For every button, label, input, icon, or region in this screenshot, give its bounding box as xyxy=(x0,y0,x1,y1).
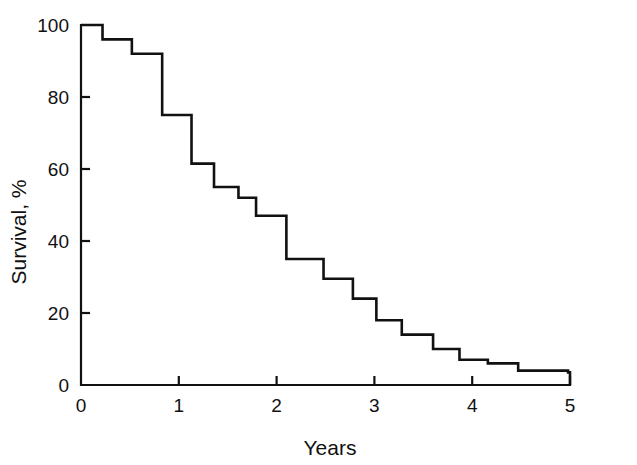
y-axis-tick-labels: 020406080100 xyxy=(37,15,69,396)
y-axis-title: Survival, % xyxy=(7,179,30,284)
x-axis-title: Years xyxy=(304,436,357,459)
chart-canvas: 020406080100 012345 Survival, % Years xyxy=(0,0,637,465)
y-tick-label: 100 xyxy=(37,15,69,36)
axis-tick-marks xyxy=(81,97,570,385)
x-tick-label: 4 xyxy=(467,395,478,416)
x-tick-label: 1 xyxy=(174,395,185,416)
x-axis-tick-labels: 012345 xyxy=(76,395,576,416)
y-tick-label: 40 xyxy=(48,231,69,252)
y-tick-label: 80 xyxy=(48,87,69,108)
x-tick-label: 2 xyxy=(271,395,282,416)
y-tick-label: 60 xyxy=(48,159,69,180)
axis-lines xyxy=(81,25,570,385)
y-tick-label: 20 xyxy=(48,303,69,324)
x-tick-label: 0 xyxy=(76,395,87,416)
x-tick-label: 3 xyxy=(369,395,380,416)
y-tick-label: 0 xyxy=(58,375,69,396)
kaplan-meier-step-curve xyxy=(81,25,570,385)
survival-curve-figure: 020406080100 012345 Survival, % Years xyxy=(0,0,637,465)
x-tick-label: 5 xyxy=(565,395,576,416)
